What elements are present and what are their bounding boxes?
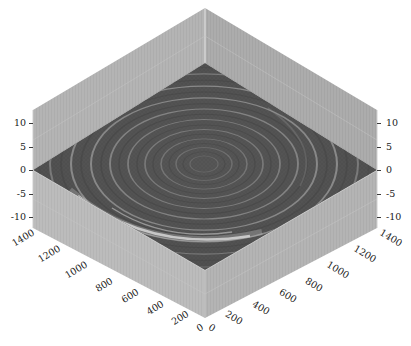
ztick-left-5: 5: [2, 142, 26, 152]
ztick-mark-right-0: [377, 170, 381, 171]
ztick-mark-right-minus5: [377, 194, 381, 195]
ztick-mark-left-5: [29, 147, 33, 148]
ztick-mark-right-minus10: [377, 217, 381, 218]
surface-plot-figure: 10 5 0 -5 -10 10 5 0 -5 -10 1400 1200 10…: [0, 0, 411, 346]
plot-3d-scene: [0, 0, 411, 346]
ztick-left-10: 10: [2, 118, 26, 128]
ztick-mark-right-10: [377, 123, 381, 124]
ztick-mark-left-minus10: [29, 217, 33, 218]
ztick-left-0: 0: [2, 165, 26, 175]
ztick-left-minus10: -10: [2, 212, 26, 222]
ztick-right-minus5: -5: [386, 189, 410, 199]
ztick-right-0: 0: [386, 165, 410, 175]
ztick-right-10: 10: [386, 118, 410, 128]
ztick-right-5: 5: [386, 142, 410, 152]
ztick-mark-right-5: [377, 147, 381, 148]
ztick-right-minus10: -10: [386, 212, 410, 222]
ztick-mark-left-0: [29, 170, 33, 171]
ztick-left-minus5: -5: [2, 189, 26, 199]
ztick-mark-left-minus5: [29, 194, 33, 195]
ztick-mark-left-10: [29, 123, 33, 124]
